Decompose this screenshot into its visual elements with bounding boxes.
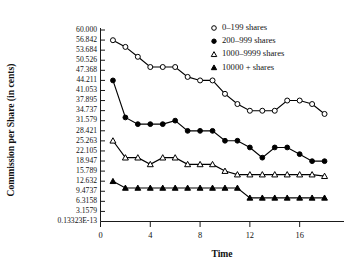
x-axis-ticks [101,222,300,228]
data-series-3 [110,138,328,179]
y-axis-tick-label: 31.579 [76,115,97,124]
data-point-marker [110,178,116,183]
y-axis-tick-label: 15.789 [76,166,97,175]
data-point-marker [173,65,178,70]
data-point-marker [222,168,228,173]
data-point-marker [160,122,165,127]
y-axis-tick-label: 34.737 [76,105,97,114]
y-axis-tick-label: 41.053 [76,85,97,94]
data-point-marker [147,161,153,166]
legend-item-label: 0–199 shares [222,22,268,32]
data-point-marker [210,78,215,83]
legend-item-label: 10000 + shares [222,62,275,72]
data-point-marker [123,44,128,49]
x-axis-tick-label: 16 [295,231,303,240]
data-point-marker [322,111,327,116]
data-point-marker [297,152,302,157]
legend-marker-open-circle-icon [212,26,217,31]
y-axis-tick-label: 37.895 [76,95,97,104]
data-point-marker [135,54,140,59]
legend-marker-open-triangle-icon [211,52,217,57]
x-axis-tick-label: 12 [246,231,254,240]
legend-item-4[interactable]: 10000 + shares [211,62,274,72]
legend-item-2[interactable]: 200–999 shares [212,35,277,45]
data-point-marker [123,115,128,120]
data-point-marker [160,65,165,70]
data-point-marker [260,155,265,160]
y-axis-title: Commission per Share (in cents) [5,64,17,197]
data-point-marker [272,108,277,113]
y-axis-tick-label: 28.421 [76,126,97,135]
series-line [113,181,325,198]
chart-legend: 0–199 shares200–999 shares1000–9999 shar… [211,22,285,72]
y-axis-tick-label: 56.842 [76,35,97,44]
data-point-marker [110,138,116,143]
data-point-marker [198,78,203,83]
y-axis-tick-label: 22.105 [76,146,97,155]
data-series-1 [110,38,327,117]
legend-item-1[interactable]: 0–199 shares [212,22,268,32]
y-axis-tick-label: 44.211 [76,75,97,84]
y-axis-tick-label: 3.1579 [76,206,97,215]
series-line [113,40,325,114]
series-line [113,141,325,176]
x-axis-tick-label: 0 [98,231,102,240]
commission-per-share-line-chart: Commission per Share (in cents) 60.00056… [0,0,351,280]
data-point-marker [223,138,228,143]
x-axis-tick-label: 4 [148,231,153,240]
chart-figure: Commission per Share (in cents) 60.00056… [0,0,351,280]
y-axis-tick-label: 0.13323E-13 [58,216,98,225]
data-point-marker [260,108,265,113]
data-series-4 [110,178,327,200]
legend-marker-filled-circle-icon [212,39,216,43]
series-line [113,80,325,161]
y-axis-tick-label: 18.947 [76,156,97,165]
data-point-marker [285,145,290,150]
y-axis-tick-labels: 60.00056.84253.68450.52647.36844.21141.0… [58,25,98,226]
data-point-marker [310,102,315,107]
data-point-marker [297,98,302,103]
legend-marker-filled-triangle-icon [211,65,216,70]
data-series-layer [110,38,328,200]
y-axis-tick-label: 9.4737 [76,186,97,195]
y-axis-title-text: Commission per Share (in cents) [5,64,17,197]
y-axis-tick-label: 50.526 [76,55,97,64]
y-axis-tick-label: 12.632 [76,176,97,185]
data-point-marker [185,74,190,79]
data-point-marker [173,118,178,123]
y-axis-tick-label: 53.684 [76,45,97,54]
data-point-marker [148,122,153,127]
data-point-marker [285,98,290,103]
data-series-2 [111,78,327,164]
legend-item-label: 200–999 shares [222,35,276,45]
y-axis-tick-label: 47.368 [76,65,97,74]
x-axis-title-text: Time [211,248,233,259]
data-point-marker [310,159,315,164]
data-point-marker [135,122,140,127]
data-point-marker [210,128,215,133]
data-point-marker [111,78,116,83]
y-axis-tick-label: 6.3158 [76,196,97,205]
data-point-marker [198,128,203,133]
data-point-marker [247,145,252,150]
x-axis-tick-label: 8 [198,231,202,240]
data-point-marker [247,108,252,113]
x-axis-tick-labels: 0481216 [98,231,303,240]
legend-item-3[interactable]: 1000–9999 shares [211,48,285,58]
data-point-marker [272,145,277,150]
data-point-marker [235,102,240,107]
data-point-marker [235,138,240,143]
y-axis-ticks [101,30,106,222]
data-point-marker [185,128,190,133]
data-point-marker [110,38,115,43]
data-point-marker [222,91,227,96]
data-point-marker [322,159,327,164]
legend-item-label: 1000–9999 shares [222,48,285,58]
data-point-marker [148,65,153,70]
y-axis-tick-label: 60.000 [76,25,97,34]
y-axis-tick-label: 25.263 [76,136,97,145]
